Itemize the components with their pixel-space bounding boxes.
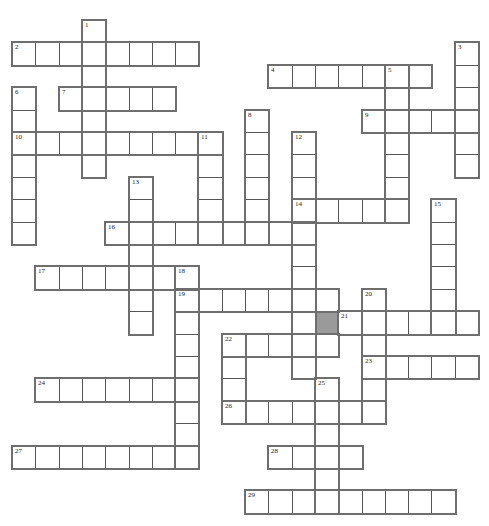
grid-cell[interactable] <box>105 266 130 290</box>
grid-cell[interactable] <box>431 356 456 379</box>
grid-cell[interactable]: 9 <box>362 110 386 133</box>
grid-cell[interactable] <box>268 490 293 514</box>
grid-cell[interactable]: 21 <box>338 311 363 335</box>
grid-cell[interactable]: 22 <box>222 334 246 357</box>
grid-cell[interactable] <box>315 334 339 357</box>
grid-cell[interactable] <box>292 311 316 335</box>
grid-cell[interactable] <box>152 42 176 66</box>
grid-cell[interactable] <box>385 177 409 200</box>
grid-cell[interactable] <box>152 266 176 290</box>
grid-cell[interactable]: 7 <box>59 87 83 111</box>
grid-cell[interactable] <box>35 132 60 155</box>
grid-cell[interactable] <box>315 199 339 223</box>
grid-cell[interactable] <box>175 311 199 335</box>
grid-cell[interactable] <box>245 289 269 312</box>
grid-cell[interactable] <box>12 110 36 133</box>
grid-cell[interactable] <box>315 468 339 491</box>
grid-cell[interactable]: 8 <box>245 110 269 133</box>
grid-cell[interactable] <box>292 222 316 245</box>
grid-cell[interactable] <box>82 266 106 290</box>
grid-cell[interactable] <box>129 311 153 335</box>
grid-cell[interactable] <box>175 446 199 469</box>
grid-cell[interactable] <box>12 222 36 245</box>
grid-cell[interactable] <box>129 132 153 155</box>
grid-cell[interactable]: 6 <box>12 87 36 111</box>
grid-cell[interactable] <box>431 266 456 290</box>
grid-cell[interactable]: 4 <box>268 65 293 88</box>
grid-cell[interactable] <box>82 42 106 66</box>
grid-cell[interactable] <box>222 356 246 379</box>
grid-cell[interactable] <box>315 401 339 424</box>
grid-cell[interactable] <box>315 446 339 469</box>
grid-cell[interactable] <box>245 177 269 200</box>
grid-cell[interactable] <box>245 334 269 357</box>
grid-cell[interactable] <box>338 65 363 88</box>
grid-cell[interactable]: 11 <box>198 132 223 155</box>
grid-cell[interactable] <box>82 154 106 178</box>
grid-cell[interactable] <box>292 266 316 290</box>
grid-cell[interactable] <box>129 87 153 111</box>
grid-cell[interactable]: 24 <box>35 378 60 402</box>
grid-cell[interactable] <box>315 289 339 312</box>
grid-cell[interactable] <box>105 378 130 402</box>
grid-cell[interactable]: 2 <box>12 42 36 66</box>
grid-cell[interactable] <box>338 401 363 424</box>
grid-cell[interactable] <box>431 490 456 514</box>
grid-cell[interactable] <box>59 132 83 155</box>
grid-cell[interactable] <box>198 177 223 200</box>
grid-cell[interactable] <box>292 401 316 424</box>
grid-cell[interactable] <box>152 132 176 155</box>
grid-cell[interactable] <box>408 490 432 514</box>
grid-cell[interactable] <box>245 199 269 223</box>
grid-cell[interactable]: 19 <box>175 289 199 312</box>
grid-cell[interactable] <box>222 222 246 245</box>
grid-cell[interactable]: 27 <box>12 446 36 469</box>
grid-cell[interactable] <box>408 65 432 88</box>
grid-cell[interactable] <box>105 42 130 66</box>
grid-cell[interactable] <box>245 132 269 155</box>
grid-cell[interactable] <box>175 132 199 155</box>
grid-cell[interactable] <box>431 311 456 335</box>
grid-cell[interactable] <box>245 154 269 178</box>
grid-cell[interactable] <box>315 65 339 88</box>
grid-cell[interactable] <box>59 446 83 469</box>
grid-cell[interactable] <box>129 266 153 290</box>
grid-cell[interactable]: 26 <box>222 401 246 424</box>
grid-cell[interactable]: 5 <box>385 65 409 88</box>
grid-cell[interactable] <box>292 356 316 379</box>
grid-cell[interactable] <box>245 401 269 424</box>
grid-cell[interactable]: 16 <box>105 222 130 245</box>
grid-cell[interactable]: 20 <box>362 289 386 312</box>
grid-cell[interactable] <box>455 356 479 379</box>
grid-cell[interactable] <box>105 87 130 111</box>
grid-cell[interactable] <box>198 289 223 312</box>
grid-cell[interactable] <box>385 356 409 379</box>
grid-cell[interactable] <box>431 222 456 245</box>
grid-cell[interactable] <box>362 311 386 335</box>
grid-cell[interactable] <box>82 446 106 469</box>
grid-cell[interactable] <box>129 244 153 267</box>
grid-cell[interactable] <box>362 334 386 357</box>
grid-cell[interactable]: 18 <box>175 266 199 290</box>
grid-cell[interactable]: 10 <box>12 132 36 155</box>
grid-cell[interactable] <box>431 289 456 312</box>
grid-cell[interactable] <box>175 401 199 424</box>
grid-cell[interactable] <box>362 378 386 402</box>
grid-cell[interactable] <box>431 110 456 133</box>
grid-cell[interactable] <box>338 446 363 469</box>
grid-cell[interactable] <box>455 311 479 335</box>
grid-cell[interactable]: 15 <box>431 199 456 223</box>
grid-cell[interactable] <box>82 132 106 155</box>
grid-cell[interactable]: 29 <box>245 490 269 514</box>
grid-cell[interactable] <box>385 132 409 155</box>
grid-cell[interactable] <box>455 65 479 88</box>
grid-cell[interactable] <box>362 401 386 424</box>
grid-cell[interactable] <box>455 110 479 133</box>
grid-cell[interactable] <box>455 87 479 111</box>
grid-cell[interactable] <box>385 490 409 514</box>
grid-cell[interactable] <box>292 65 316 88</box>
grid-cell[interactable] <box>338 199 363 223</box>
grid-cell[interactable] <box>152 446 176 469</box>
grid-cell[interactable] <box>268 222 293 245</box>
grid-cell[interactable] <box>129 222 153 245</box>
